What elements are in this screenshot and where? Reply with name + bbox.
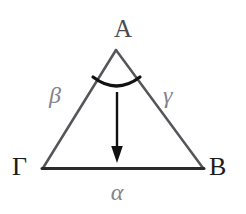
side-label-gamma: γ <box>163 83 172 107</box>
triangle-figure: A Γ B β γ α <box>0 0 246 214</box>
side-label-alpha: α <box>0 180 240 204</box>
height-arrow <box>111 92 123 163</box>
triangle-side-right <box>116 50 203 168</box>
side-label-beta: β <box>49 83 61 107</box>
triangle-side-left <box>43 50 116 168</box>
vertex-label-gamma: Γ <box>12 154 27 180</box>
apex-angle-arc <box>93 77 140 86</box>
vertex-label-b: B <box>209 154 226 180</box>
vertex-label-a: A <box>0 16 246 41</box>
height-arrow-head <box>111 146 123 163</box>
